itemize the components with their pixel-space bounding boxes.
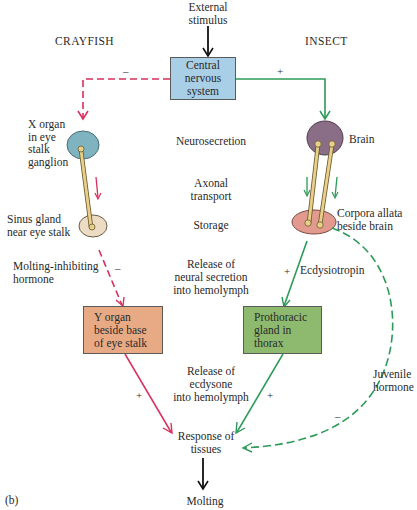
corpora-line-1: Corpora allata bbox=[337, 207, 402, 220]
external-stimulus-label: External stimulus bbox=[189, 1, 228, 27]
release-neural-line-3: into hemolymph bbox=[173, 284, 249, 297]
insect-ecdysone-sign: + bbox=[267, 390, 273, 401]
prothoracic-line-1: Prothoracic bbox=[254, 311, 321, 324]
insect-cns-sign: + bbox=[277, 66, 283, 77]
cns-line-2: nervous bbox=[171, 72, 235, 85]
x-organ-line-4: ganglion bbox=[28, 156, 68, 169]
molting-inhibiting-hormone-label: Molting-inhibiting hormone bbox=[13, 260, 99, 286]
corpora-allata-label: Corpora allata beside brain bbox=[337, 207, 402, 233]
release-ecdysone-line-1: Release of bbox=[173, 365, 249, 378]
storage-label: Storage bbox=[193, 219, 228, 232]
release-neural-line-2: neural secretion bbox=[173, 271, 249, 284]
response-line-1: Response of bbox=[178, 430, 235, 443]
x-organ-line-3: stalk bbox=[28, 143, 68, 156]
juvenile-hormone-sign: – bbox=[335, 411, 341, 422]
release-ecdysone-label: Release of ecdysone into hemolymph bbox=[173, 365, 249, 404]
prothoracic-gland-box: Prothoracic gland in thorax bbox=[243, 306, 322, 354]
x-organ-label: X organ in eye stalk ganglion bbox=[28, 118, 68, 168]
cns-to-x-organ-arrow bbox=[78, 79, 170, 119]
cns-line-1: Central bbox=[171, 59, 235, 72]
release-ecdysone-line-2: ecdysone bbox=[173, 378, 249, 391]
cns-line-3: system bbox=[171, 85, 235, 98]
release-neural-line-1: Release of bbox=[173, 258, 249, 271]
neurosecretion-label: Neurosecretion bbox=[176, 135, 246, 148]
x-organ-line-1: X organ bbox=[28, 118, 68, 131]
axonal-transport-label: Axonal transport bbox=[191, 177, 232, 203]
y-organ-line-1: Y organ bbox=[94, 311, 162, 324]
y-organ-box: Y organ beside base of eye stalk bbox=[83, 306, 163, 354]
y-organ-line-3: of eye stalk bbox=[94, 337, 162, 350]
y-organ-to-response-arrow bbox=[125, 354, 172, 433]
stimulus-arrow bbox=[203, 26, 213, 56]
sinus-line-2: near eye stalk bbox=[7, 226, 70, 239]
sinus-line-1: Sinus gland bbox=[7, 213, 70, 226]
juvenile-hormone-label: Juvenile hormone bbox=[373, 368, 414, 394]
response-of-tissues-label: Response of tissues bbox=[178, 430, 235, 456]
crayfish-transport-arrow bbox=[95, 177, 101, 199]
y-organ-line-2: beside base bbox=[94, 324, 162, 337]
prothoracic-line-3: thorax bbox=[254, 337, 321, 350]
molting-hormone-diagram: CRAYFISH INSECT External stimulus Centra… bbox=[0, 0, 417, 510]
juvenile-line-1: Juvenile bbox=[373, 368, 414, 381]
release-neural-secretion-label: Release of neural secretion into hemolym… bbox=[173, 258, 249, 297]
molting-label: Molting bbox=[186, 495, 223, 508]
stimulus-line-2: stimulus bbox=[189, 14, 228, 27]
response-to-molting-arrow bbox=[198, 458, 208, 489]
hormone-line-2: hormone bbox=[13, 273, 99, 286]
hormone-line-1: Molting-inhibiting bbox=[13, 260, 99, 273]
stimulus-line-1: External bbox=[189, 1, 228, 14]
release-ecdysone-line-3: into hemolymph bbox=[173, 391, 249, 404]
x-organ-line-2: in eye bbox=[28, 131, 68, 144]
juvenile-line-2: hormone bbox=[373, 381, 414, 394]
crayfish-ecdysone-sign: + bbox=[136, 390, 142, 401]
response-line-2: tissues bbox=[178, 443, 235, 456]
central-nervous-system-box: Central nervous system bbox=[170, 57, 236, 100]
cns-to-brain-arrow bbox=[235, 79, 330, 119]
insect-transport-arrows bbox=[304, 177, 338, 198]
corpora-allata bbox=[292, 210, 336, 234]
axonal-line-1: Axonal bbox=[191, 177, 232, 190]
corpora-line-2: beside brain bbox=[337, 220, 402, 233]
ecdysiotropin-label: Ecdysiotropin bbox=[300, 264, 365, 277]
brain-label: Brain bbox=[349, 133, 375, 146]
crayfish-heading: CRAYFISH bbox=[55, 35, 114, 48]
prothoracic-line-2: gland in bbox=[254, 324, 321, 337]
figure-label: (b) bbox=[5, 494, 18, 507]
sinus-to-y-organ-arrow bbox=[99, 250, 124, 306]
insect-heading: INSECT bbox=[305, 35, 348, 48]
ecdysiotropin-sign: + bbox=[284, 266, 290, 277]
crayfish-hormone-sign: – bbox=[115, 263, 121, 274]
sinus-gland-label: Sinus gland near eye stalk bbox=[7, 213, 70, 239]
brain bbox=[307, 121, 343, 155]
crayfish-cns-sign: – bbox=[123, 66, 129, 77]
axonal-line-2: transport bbox=[191, 190, 232, 203]
